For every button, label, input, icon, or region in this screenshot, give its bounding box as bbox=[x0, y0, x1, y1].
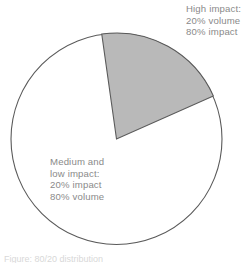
annotation-high-impact-line-1: High impact: bbox=[186, 3, 241, 15]
annotation-high-impact-line-3: 80% impact bbox=[186, 26, 241, 38]
annotation-medium-low-impact-line-2: low impact: bbox=[50, 168, 104, 180]
figure-caption-clipped: Figure: 80/20 distribution bbox=[4, 254, 103, 263]
pie-chart-canvas bbox=[0, 0, 247, 263]
pie-chart-figure: High impact: 20% volume 80% impact Mediu… bbox=[0, 0, 247, 263]
annotation-medium-low-impact: Medium and low impact: 20% impact 80% vo… bbox=[50, 156, 104, 202]
annotation-medium-low-impact-line-4: 80% volume bbox=[50, 191, 104, 203]
annotation-medium-low-impact-line-1: Medium and bbox=[50, 156, 104, 168]
annotation-high-impact: High impact: 20% volume 80% impact bbox=[186, 3, 241, 38]
annotation-medium-low-impact-line-3: 20% impact bbox=[50, 179, 104, 191]
annotation-high-impact-line-2: 20% volume bbox=[186, 15, 241, 27]
